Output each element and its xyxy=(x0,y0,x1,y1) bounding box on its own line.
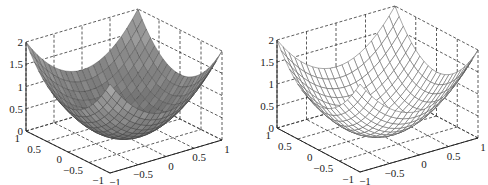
y-tick-label: 0.5 xyxy=(278,140,292,152)
x-tick-label: 0 xyxy=(168,160,174,172)
y-tick-label: 1 xyxy=(266,129,272,141)
x-tick-label: 1 xyxy=(480,141,486,153)
surface-patch xyxy=(26,42,36,59)
x-tick-label: −0.5 xyxy=(385,167,405,179)
z-tick-label: 1 xyxy=(269,78,275,90)
z-tick-label: 0.5 xyxy=(260,100,274,112)
x-tick-label: 1 xyxy=(224,143,230,155)
y-tick-label: −0.5 xyxy=(313,162,333,174)
x-tick-label: −0.5 xyxy=(133,168,153,180)
surf-plot-panel: 00.511.5210.50−0.5−1−1−0.500.51 xyxy=(9,9,230,185)
y-tick-label: −1 xyxy=(342,173,354,185)
z-tick-label: 1 xyxy=(18,81,24,93)
surface-patch xyxy=(204,63,214,78)
surface-patch xyxy=(277,40,287,57)
x-tick-label: 0 xyxy=(421,158,427,170)
z-tick-label: 0.5 xyxy=(9,103,23,115)
y-tick-label: 1 xyxy=(15,132,21,144)
y-tick-label: −1 xyxy=(92,174,104,185)
y-tick-label: 0.5 xyxy=(27,143,41,155)
x-tick-label: 0.5 xyxy=(192,151,206,163)
x-tick-label: −1 xyxy=(359,175,371,185)
y-tick-label: 0 xyxy=(307,151,313,163)
z-tick-label: 2 xyxy=(18,36,24,48)
z-tick-label: 1.5 xyxy=(9,58,23,70)
y-tick-label: −0.5 xyxy=(63,164,83,176)
figure: 00.511.5210.50−0.5−1−1−0.500.51 00.511.5… xyxy=(0,0,488,185)
x-tick-label: 0.5 xyxy=(447,150,461,162)
z-tick-label: 1.5 xyxy=(260,56,274,68)
x-tick-label: −1 xyxy=(109,176,121,185)
mesh-plot-panel: 00.511.5210.50−0.5−1−1−0.500.51 xyxy=(260,6,486,185)
z-tick-label: 2 xyxy=(269,34,275,46)
y-tick-label: 0 xyxy=(57,153,63,165)
